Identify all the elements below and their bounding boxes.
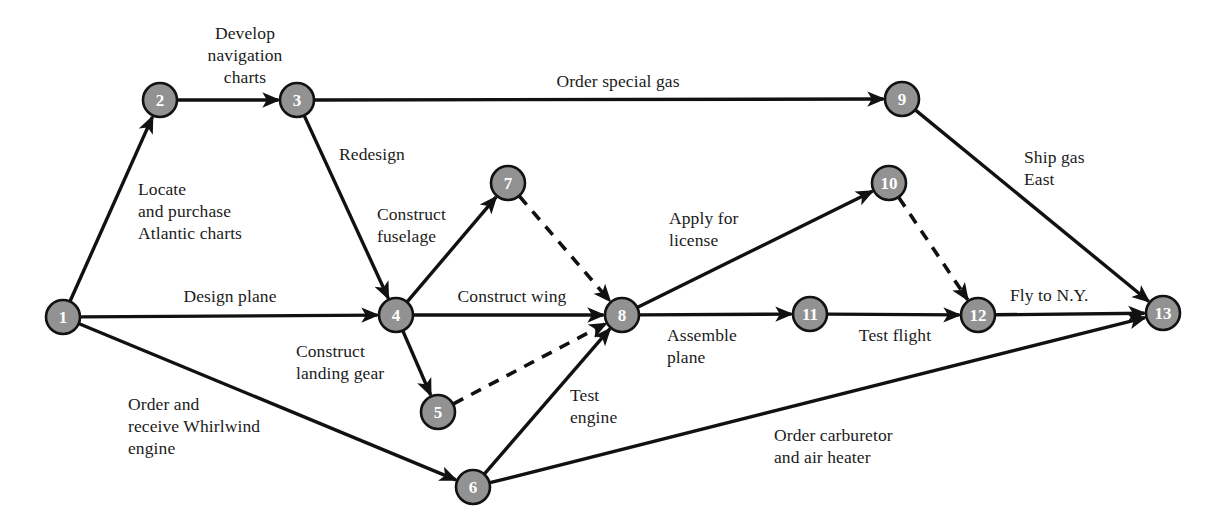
- edge-label-test_engine: Test engine: [570, 384, 660, 428]
- node-7[interactable]: 7: [491, 166, 525, 200]
- edge-10-to-12: [899, 198, 968, 300]
- edge-label-construct_landing_gear: Construct landing gear: [296, 340, 426, 384]
- edge-11-to-12: [827, 314, 959, 315]
- node-10[interactable]: 10: [872, 166, 906, 200]
- node-number-7: 7: [504, 174, 513, 193]
- node-number-11: 11: [802, 305, 818, 324]
- node-number-10: 10: [881, 174, 898, 193]
- edge-12-to-13: [995, 313, 1144, 315]
- node-number-2: 2: [156, 91, 165, 110]
- node-number-12: 12: [970, 306, 987, 325]
- node-5[interactable]: 5: [421, 395, 455, 429]
- edge-label-order_receive_whirlwind: Order and receive Whirlwind engine: [128, 393, 328, 459]
- node-1[interactable]: 1: [46, 300, 80, 334]
- edge-label-develop_navigation_charts: Develop navigation charts: [185, 22, 305, 88]
- edge-label-test_flight: Test flight: [845, 324, 945, 346]
- edge-8-to-11: [639, 314, 791, 315]
- edge-label-order_carburetor_air_heater: Order carburetor and air heater: [774, 424, 954, 468]
- edge-label-apply_for_license: Apply for license: [669, 207, 779, 251]
- edge-label-redesign: Redesign: [339, 143, 439, 165]
- node-4[interactable]: 4: [379, 298, 413, 332]
- node-2[interactable]: 2: [143, 83, 177, 117]
- node-6[interactable]: 6: [456, 470, 490, 504]
- node-13[interactable]: 13: [1146, 296, 1180, 330]
- node-number-8: 8: [618, 306, 627, 325]
- node-number-13: 13: [1155, 304, 1172, 323]
- node-number-4: 4: [392, 306, 401, 325]
- edge-3-to-9: [314, 99, 883, 100]
- edge-label-construct_wing: Construct wing: [432, 285, 592, 307]
- node-number-6: 6: [469, 478, 478, 497]
- node-12[interactable]: 12: [961, 298, 995, 332]
- edge-label-order_special_gas: Order special gas: [528, 70, 708, 92]
- edge-label-locate_purchase_charts: Locate and purchase Atlantic charts: [138, 178, 318, 244]
- node-8[interactable]: 8: [605, 298, 639, 332]
- network-diagram: 12345678910111213 Develop navigation cha…: [0, 0, 1229, 532]
- node-number-3: 3: [293, 91, 302, 110]
- node-11[interactable]: 11: [793, 297, 827, 331]
- node-number-9: 9: [898, 90, 907, 109]
- edge-label-assemble_plane: Assemble plane: [667, 324, 777, 368]
- node-9[interactable]: 9: [885, 82, 919, 116]
- node-number-1: 1: [59, 308, 68, 327]
- edge-label-fly_to_ny: Fly to N.Y.: [1010, 284, 1110, 306]
- edge-label-construct_fuselage: Construct fuselage: [377, 203, 487, 247]
- edge-label-design_plane: Design plane: [160, 285, 300, 307]
- edge-label-ship_gas_east: Ship gas East: [1024, 146, 1134, 190]
- node-number-5: 5: [434, 403, 443, 422]
- edge-9-to-13: [916, 110, 1149, 301]
- edge-1-to-4: [80, 315, 377, 317]
